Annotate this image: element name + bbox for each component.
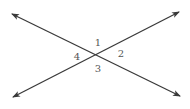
intersecting-lines-diagram: 1 2 3 4 (0, 0, 190, 109)
angle-label-2: 2 (118, 48, 124, 59)
line-b (13, 12, 179, 97)
angle-label-1: 1 (95, 37, 101, 48)
angle-label-4: 4 (74, 51, 80, 62)
angle-label-3: 3 (95, 63, 101, 74)
